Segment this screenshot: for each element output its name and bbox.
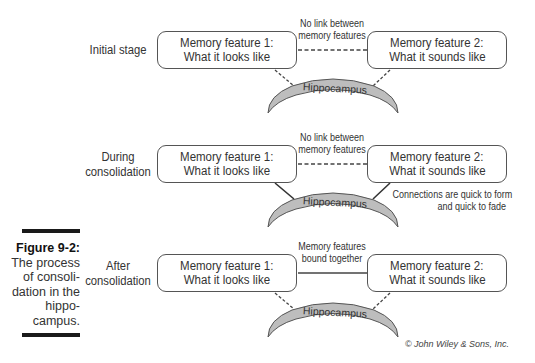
feature-2-title: Memory feature 2: — [390, 259, 483, 274]
note-line: and quick to fade — [393, 201, 506, 213]
caption-line: of consoli- — [0, 270, 80, 285]
note-line: Connections are quick to form — [393, 189, 506, 201]
note-line: No link between — [296, 18, 368, 30]
stage-label-line: consolidation — [82, 274, 154, 289]
feature-2-desc: What it sounds like — [389, 50, 486, 65]
stage-label-after: After consolidation — [82, 259, 154, 289]
stage-label-line: During — [82, 150, 154, 165]
memory-feature-1-box: Memory feature 1: What it looks like — [157, 31, 297, 69]
feature-1-title: Memory feature 1: — [180, 150, 273, 165]
link-note-1: No link between memory features — [296, 18, 368, 42]
note-line: No link between — [296, 132, 368, 144]
feature-1-desc: What it looks like — [184, 50, 270, 65]
feature-1-desc: What it looks like — [184, 273, 270, 288]
feature-2-desc: What it sounds like — [389, 164, 486, 179]
note-line: memory features — [296, 144, 368, 156]
note-line: memory features — [296, 30, 368, 42]
copyright-notice: © John Wiley & Sons, Inc. — [405, 339, 509, 349]
stage-label-initial: Initial stage — [86, 43, 151, 58]
figure-caption: Figure 9-2: The process of consoli- dati… — [0, 241, 80, 328]
caption-bottom-rule — [22, 333, 80, 337]
note-line: Memory features — [296, 241, 368, 253]
memory-feature-2-box: Memory feature 2: What it sounds like — [367, 31, 507, 69]
stage-label-line: consolidation — [82, 165, 154, 180]
link-note-2: No link between memory features — [296, 132, 368, 156]
caption-line: dation in the — [0, 285, 80, 300]
link-note-3: Memory features bound together — [296, 241, 368, 265]
caption-line: hippo- — [0, 299, 80, 314]
memory-feature-2-box: Memory feature 2: What it sounds like — [367, 254, 507, 292]
connections-note: Connections are quick to form and quick … — [393, 189, 506, 213]
stage-label-line: After — [82, 259, 154, 274]
note-line: bound together — [296, 253, 368, 265]
feature-1-desc: What it looks like — [184, 164, 270, 179]
feature-2-title: Memory feature 2: — [390, 150, 483, 165]
stage-label-during: During consolidation — [82, 150, 154, 180]
caption-top-rule — [22, 229, 80, 233]
memory-feature-1-box: Memory feature 1: What it looks like — [157, 254, 297, 292]
figure-number: Figure 9-2: — [0, 241, 80, 256]
feature-2-desc: What it sounds like — [389, 273, 486, 288]
caption-line: The process — [0, 256, 80, 271]
caption-line: campus. — [0, 314, 80, 329]
feature-2-title: Memory feature 2: — [390, 36, 483, 51]
stage-label-line: Initial stage — [86, 43, 151, 58]
memory-feature-2-box: Memory feature 2: What it sounds like — [367, 145, 507, 183]
feature-1-title: Memory feature 1: — [180, 36, 273, 51]
memory-feature-1-box: Memory feature 1: What it looks like — [157, 145, 297, 183]
feature-1-title: Memory feature 1: — [180, 259, 273, 274]
